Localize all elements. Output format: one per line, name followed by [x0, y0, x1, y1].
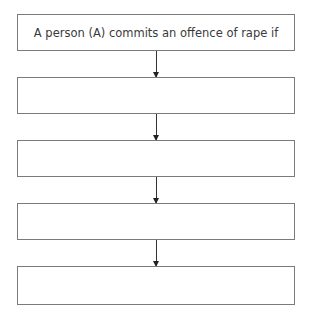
arrow-3-4: [156, 177, 157, 203]
flow-box-1-label: A person (A) commits an offence of rape …: [34, 26, 278, 40]
arrow-1-2: [156, 51, 157, 77]
arrow-2-3: [156, 114, 157, 140]
flow-box-4[interactable]: [17, 203, 295, 240]
flow-box-2[interactable]: [17, 77, 295, 114]
flow-box-1: A person (A) commits an offence of rape …: [17, 14, 295, 51]
flow-box-3[interactable]: [17, 140, 295, 177]
arrow-4-5: [156, 240, 157, 266]
flow-box-5[interactable]: [17, 266, 295, 305]
